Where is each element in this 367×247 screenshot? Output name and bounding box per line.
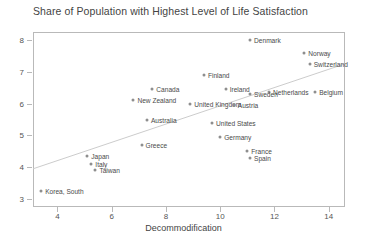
x-tick-label: 14 bbox=[324, 212, 333, 221]
y-tick-mark bbox=[27, 199, 32, 200]
data-point[interactable] bbox=[151, 88, 154, 91]
data-point-label: Belgium bbox=[319, 89, 343, 96]
data-point-label: Sweden bbox=[254, 91, 278, 98]
data-point[interactable] bbox=[94, 169, 97, 172]
x-tick-label: 8 bbox=[164, 212, 168, 221]
plot-area bbox=[33, 32, 345, 207]
data-point-label: Switzerland bbox=[314, 60, 348, 67]
y-tick-label: 7 bbox=[12, 67, 24, 76]
data-point[interactable] bbox=[224, 88, 227, 91]
y-tick-label: 4 bbox=[12, 163, 24, 172]
data-point-label: United States bbox=[216, 119, 256, 126]
data-point[interactable] bbox=[249, 156, 252, 159]
data-point[interactable] bbox=[232, 104, 235, 107]
data-point[interactable] bbox=[40, 190, 43, 193]
y-tick-label: 3 bbox=[12, 195, 24, 204]
y-tick-mark bbox=[27, 72, 32, 73]
chart-title: Share of Population with Highest Level o… bbox=[33, 5, 308, 17]
scatter-chart: Share of Population with Highest Level o… bbox=[0, 0, 367, 247]
y-tick-mark bbox=[27, 167, 32, 168]
data-point[interactable] bbox=[86, 155, 89, 158]
data-point-label: Austria bbox=[238, 102, 259, 109]
data-point[interactable] bbox=[249, 93, 252, 96]
x-tick-label: 10 bbox=[216, 212, 225, 221]
data-point-label: New Zealand bbox=[137, 97, 176, 104]
y-tick-label: 5 bbox=[12, 131, 24, 140]
y-tick-mark bbox=[27, 40, 32, 41]
data-point[interactable] bbox=[211, 121, 214, 124]
y-tick-label: 8 bbox=[12, 35, 24, 44]
x-tick-label: 4 bbox=[55, 212, 59, 221]
data-point-label: Korea, South bbox=[45, 188, 84, 195]
data-point[interactable] bbox=[145, 118, 148, 121]
data-point[interactable] bbox=[303, 51, 306, 54]
data-point-label: Netherlands bbox=[273, 89, 309, 96]
data-point[interactable] bbox=[132, 99, 135, 102]
data-point-label: Canada bbox=[156, 86, 179, 93]
data-point[interactable] bbox=[249, 38, 252, 41]
x-tick-label: 6 bbox=[109, 212, 113, 221]
x-axis-label: Decommodification bbox=[0, 223, 367, 233]
y-tick-label: 6 bbox=[12, 99, 24, 108]
y-tick-mark bbox=[27, 104, 32, 105]
data-point[interactable] bbox=[219, 136, 222, 139]
x-tick-label: 12 bbox=[270, 212, 279, 221]
data-point-label: Germany bbox=[224, 134, 251, 141]
data-point[interactable] bbox=[140, 143, 143, 146]
data-point[interactable] bbox=[246, 150, 249, 153]
data-point-label: Norway bbox=[308, 49, 330, 56]
data-point-label: Denmark bbox=[254, 36, 281, 43]
data-point[interactable] bbox=[308, 62, 311, 65]
data-point-label: Spain bbox=[254, 154, 271, 161]
data-point-label: Ireland bbox=[230, 86, 250, 93]
data-point-label: Japan bbox=[91, 153, 109, 160]
data-point-label: Finland bbox=[208, 71, 230, 78]
data-point[interactable] bbox=[90, 163, 93, 166]
data-point[interactable] bbox=[314, 91, 317, 94]
data-point[interactable] bbox=[189, 102, 192, 105]
data-point[interactable] bbox=[202, 73, 205, 76]
y-tick-mark bbox=[27, 135, 32, 136]
data-point-label: Australia bbox=[151, 116, 177, 123]
data-point-label: Greece bbox=[146, 141, 168, 148]
data-point-label: Taiwan bbox=[99, 167, 120, 174]
